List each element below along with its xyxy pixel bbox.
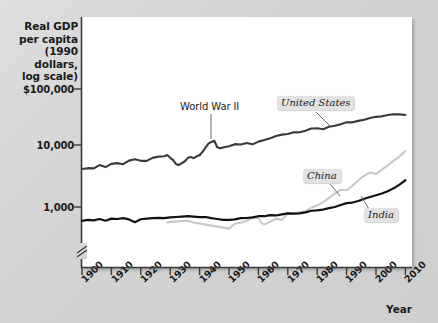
- series-line-united-states: [82, 114, 405, 169]
- x-axis-ticks: [82, 268, 405, 275]
- label-leader-lines: [211, 112, 369, 209]
- series-line-india: [82, 180, 405, 222]
- series-label-india: India: [364, 208, 398, 222]
- annotation-world-war-ii: World War II: [180, 101, 239, 112]
- chart-figure: Real GDP per capita (1990 dollars, log s…: [0, 0, 438, 323]
- series-label-united-states: United States: [277, 96, 354, 110]
- y-axis-break-icon: [77, 243, 87, 259]
- chart-canvas: [0, 0, 438, 323]
- series-label-china: China: [303, 169, 341, 183]
